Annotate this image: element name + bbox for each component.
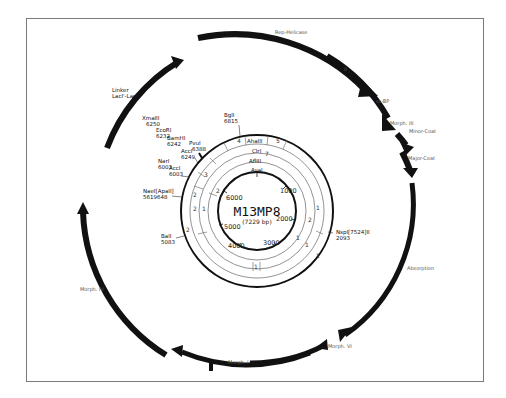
- site-bgli[interactable]: BglI 6815: [224, 112, 238, 124]
- enzyme-ring-labels: AhaIII ClrI AflIII AvaI: [247, 138, 263, 173]
- site-tick: [209, 363, 213, 371]
- ring-number: 1: [296, 234, 300, 241]
- site-bali[interactable]: BalI 5083: [161, 233, 175, 245]
- svg-text:6250: 6250: [146, 121, 160, 127]
- enzyme-ring-label: AhaIII: [247, 138, 263, 144]
- svg-text:6232: 6232: [156, 133, 170, 139]
- ring-number: 1: [254, 263, 258, 270]
- gene-labels: Rep-Helicase II ss-BP Morph. III Minor-C…: [80, 29, 436, 366]
- ring-number: 1: [202, 205, 206, 212]
- ring-number: 2: [186, 226, 190, 233]
- ring-number: 7: [265, 150, 269, 157]
- svg-text:6003: 6003: [169, 171, 183, 177]
- gene-label-ss-bp: ss-BP: [376, 98, 389, 104]
- ring-number: 2: [308, 216, 312, 223]
- ring-number: 5: [276, 137, 280, 144]
- gene-label-major-coat: Major-Coat: [408, 155, 435, 162]
- ring-number: 3: [204, 171, 208, 178]
- enzyme-ring-label: AvaI: [251, 167, 263, 173]
- site-ecori[interactable]: EcoRI 6232: [156, 127, 172, 139]
- laci-lacz-label: LacI'-LacZ': [112, 93, 141, 99]
- arrowhead: [403, 168, 418, 178]
- svg-text:6249: 6249: [181, 154, 195, 160]
- ring-number: 1: [316, 204, 320, 211]
- ring-number: 2: [193, 205, 197, 212]
- svg-text:6388: 6388: [192, 146, 206, 152]
- gene-label-minor-coat: Minor-Coat: [409, 128, 436, 134]
- plasmid-size: (7229 bp): [242, 218, 271, 226]
- plasmid-name: M13MP8: [234, 204, 281, 219]
- svg-text:5083: 5083: [161, 239, 175, 245]
- gene-arrows: [77, 34, 418, 371]
- gene-label-rep-helicase: Rep-Helicase: [275, 29, 307, 36]
- ring-number: 2: [193, 191, 197, 198]
- arrowhead: [77, 202, 89, 214]
- gene-label-morph-iii: Morph. III: [390, 120, 413, 127]
- site-nspi[interactable]: NspI[7524]II 2093: [336, 229, 370, 241]
- enzyme-ring-label: ClrI: [252, 148, 262, 154]
- gene-label-morph-vi: Morph. VI: [328, 343, 352, 350]
- gene-label-morph-iv: Morph. IV: [80, 286, 104, 293]
- scale-label: 2000: [276, 215, 293, 223]
- gene-arrow-ii[interactable]: [327, 56, 388, 118]
- ring-number: 1: [305, 241, 309, 248]
- gene-arrow-morph-iv[interactable]: [83, 212, 166, 355]
- ring-number: 1: [316, 252, 320, 259]
- ring-number: 4: [237, 137, 241, 144]
- scale-label: 4000: [228, 242, 245, 250]
- gene-label-morph-i: Morph. I: [228, 359, 248, 366]
- ring-number: 2: [216, 187, 220, 194]
- svg-text:6242: 6242: [167, 141, 181, 147]
- scale-label: 5000: [224, 223, 241, 231]
- svg-text:6815: 6815: [224, 118, 238, 124]
- site-xmaiii[interactable]: XmaIII 6250: [142, 115, 160, 127]
- gene-label-ii: II: [344, 66, 347, 72]
- plasmid-map: M13MP8 (7229 bp) 1000 2000 3000 4000 500…: [0, 0, 506, 398]
- svg-text:5619648: 5619648: [143, 194, 168, 200]
- svg-text:2093: 2093: [336, 235, 350, 241]
- enzyme-ring-label: AflIII: [249, 158, 261, 164]
- scale-label: 6000: [226, 194, 243, 202]
- arrowhead: [171, 345, 183, 357]
- scale-label: 1000: [280, 187, 297, 195]
- scale-label: 3000: [263, 239, 280, 247]
- gene-arrow-absorption[interactable]: [345, 183, 413, 335]
- site-naei[interactable]: NaeI[ApaII] 5619648: [143, 188, 174, 200]
- site-acci-6003[interactable]: AccI 6003: [169, 165, 183, 177]
- gene-label-absorption: Absorption: [407, 265, 434, 272]
